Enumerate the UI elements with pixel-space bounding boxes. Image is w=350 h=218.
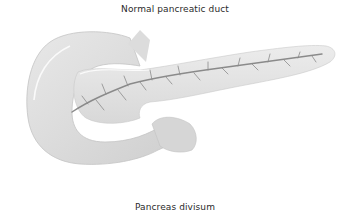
pancreas-illustration	[0, 0, 350, 218]
diagram-title-pancreas-divisum: Pancreas divisum	[0, 202, 350, 212]
